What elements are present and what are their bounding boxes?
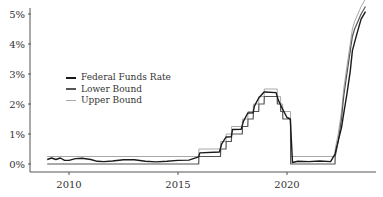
line-chart-plot: 0%1%2%3%4%5%201020152020: [0, 0, 383, 197]
y-tick-label: 3%: [9, 69, 25, 80]
chart-container: 0%1%2%3%4%5%201020152020 Federal Funds R…: [0, 0, 383, 197]
legend-label: Upper Bound: [81, 95, 142, 107]
y-tick-label: 0%: [9, 159, 25, 170]
legend: Federal Funds Rate Lower Bound Upper Bou…: [66, 72, 171, 107]
y-tick-label: 2%: [9, 99, 25, 110]
legend-swatch-lower-bound: [66, 88, 76, 90]
x-tick-label: 2015: [165, 179, 190, 190]
legend-label: Federal Funds Rate: [81, 72, 171, 84]
legend-swatch-upper-bound: [66, 100, 76, 101]
axes: 0%1%2%3%4%5%201020152020: [9, 8, 376, 190]
legend-swatch-federal-funds-rate: [66, 77, 76, 79]
x-tick-label: 2020: [274, 179, 299, 190]
legend-item-federal-funds-rate: Federal Funds Rate: [66, 72, 171, 84]
legend-item-lower-bound: Lower Bound: [66, 84, 171, 96]
y-tick-label: 5%: [9, 9, 25, 20]
legend-item-upper-bound: Upper Bound: [66, 95, 171, 107]
y-tick-label: 4%: [9, 39, 25, 50]
legend-label: Lower Bound: [81, 84, 142, 96]
x-tick-label: 2010: [56, 179, 81, 190]
y-tick-label: 1%: [9, 129, 25, 140]
